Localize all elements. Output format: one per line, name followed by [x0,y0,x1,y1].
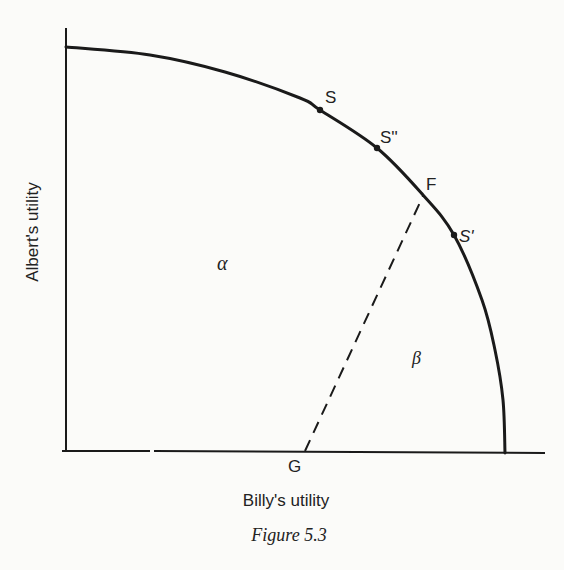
x-axis-title: Billy's utility [243,491,330,510]
figure-caption: Figure 5.3 [250,525,326,545]
label-f: F [426,175,436,194]
label-alpha: α [217,252,228,274]
label-s-prime: S' [459,227,474,246]
dashed-line-g-f [305,196,423,451]
utility-frontier-diagram: S S'' F S' G α β Billy's utility Albert'… [0,0,564,570]
point-s [317,107,323,113]
label-s-double-prime: S'' [380,128,398,147]
y-axis-title: Albert's utility [23,182,42,282]
point-s-prime [451,232,457,238]
label-beta: β [411,348,421,368]
label-s: S [325,88,336,107]
label-g: G [288,457,301,476]
x-axis-right-segment [154,451,545,453]
utility-frontier-curve [66,47,505,453]
